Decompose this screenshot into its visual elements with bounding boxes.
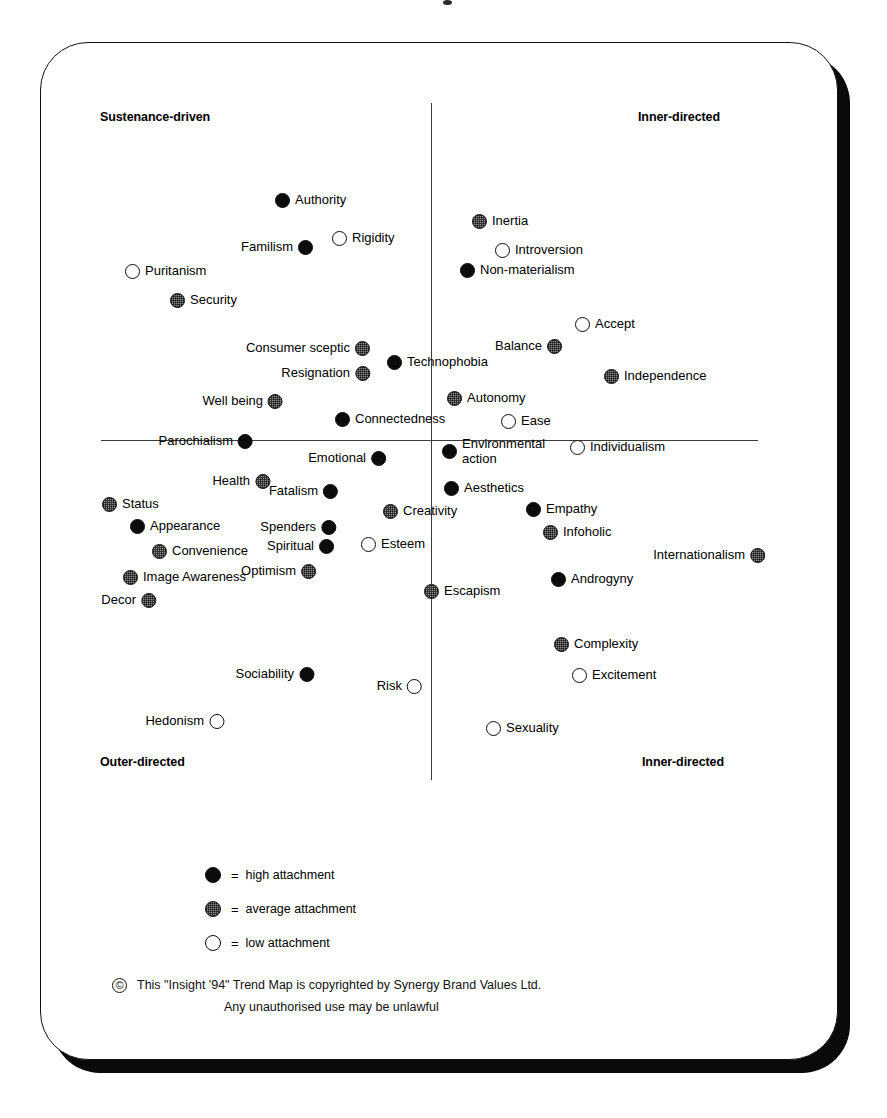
data-point[interactable]: Balance [495, 339, 562, 354]
data-point-label: Hedonism [145, 714, 209, 729]
marker-average-attachment-icon [141, 593, 156, 608]
marker-average-attachment-icon [543, 525, 558, 540]
data-point[interactable]: Authority [275, 193, 346, 208]
data-point[interactable]: Androgyny [551, 572, 633, 587]
data-point[interactable]: Resignation [281, 366, 370, 381]
data-point[interactable]: Spenders [260, 520, 336, 535]
data-point-label: Independence [619, 369, 706, 384]
marker-average-attachment-icon [355, 341, 370, 356]
data-point[interactable]: Complexity [554, 637, 638, 652]
data-point[interactable]: Ease [501, 414, 551, 429]
data-point[interactable]: Emotional [308, 451, 386, 466]
data-point[interactable]: Hedonism [145, 714, 224, 729]
data-point-label: Non-materialism [475, 263, 575, 278]
data-point-label: Aesthetics [459, 481, 524, 496]
data-point[interactable]: Rigidity [332, 231, 395, 246]
data-point[interactable]: Non-materialism [460, 263, 575, 278]
data-point[interactable]: Sociability [235, 667, 314, 682]
marker-low-attachment-icon [501, 414, 516, 429]
data-point[interactable]: Image Awareness [123, 570, 246, 585]
data-point[interactable]: Creativity [383, 504, 457, 519]
copyright-notice: © This "Insight '94" Trend Map is copyri… [112, 978, 752, 1014]
data-point-label: Creativity [398, 504, 457, 519]
data-point-label: Convenience [167, 544, 248, 559]
data-point[interactable]: Infoholic [543, 525, 611, 540]
data-point-label: Fatalism [269, 484, 323, 499]
data-point[interactable]: Security [170, 293, 237, 308]
legend-marker-high-icon [205, 867, 221, 883]
marker-low-attachment-icon [495, 243, 510, 258]
data-point[interactable]: Familism [241, 240, 313, 255]
data-point[interactable]: Individualism [570, 440, 665, 455]
data-point-label: Sexuality [501, 721, 559, 736]
data-point[interactable]: Risk [377, 679, 422, 694]
quadrant-label-top-left: Sustenance-driven [100, 110, 210, 124]
data-point[interactable]: Appearance [130, 519, 220, 534]
data-point[interactable]: Independence [604, 369, 706, 384]
data-point[interactable]: Autonomy [447, 391, 526, 406]
marker-average-attachment-icon [123, 570, 138, 585]
data-point-label: Security [185, 293, 237, 308]
data-point-label: Well being [203, 394, 268, 409]
data-point-label: Excitement [587, 668, 656, 683]
marker-low-attachment-icon [575, 317, 590, 332]
data-point[interactable]: Introversion [495, 243, 583, 258]
trend-map-page: Sustenance-driven Inner-directed Outer-d… [0, 0, 887, 1118]
data-point[interactable]: Technophobia [387, 355, 488, 370]
legend-marker-low-icon [205, 935, 221, 951]
data-point-label: Consumer sceptic [246, 341, 355, 356]
data-point[interactable]: Aesthetics [444, 481, 524, 496]
data-point[interactable]: Excitement [572, 668, 656, 683]
data-point[interactable]: Status [102, 497, 159, 512]
quadrant-label-top-right: Inner-directed [638, 110, 720, 124]
data-point[interactable]: Optimism [241, 564, 316, 579]
marker-average-attachment-icon [170, 293, 185, 308]
data-point-label: Inertia [487, 214, 528, 229]
data-point[interactable]: Connectedness [335, 412, 445, 427]
data-point[interactable]: Decor [101, 593, 156, 608]
marker-average-attachment-icon [152, 544, 167, 559]
data-point-label: Individualism [585, 440, 665, 455]
marker-average-attachment-icon [355, 366, 370, 381]
data-point[interactable]: Internationalism [653, 548, 765, 563]
data-point-label: Optimism [241, 564, 301, 579]
data-point[interactable]: Puritanism [125, 264, 206, 279]
data-point-label: Accept [590, 317, 635, 332]
data-point-label: Esteem [376, 537, 425, 552]
data-point-label: Spiritual [267, 539, 319, 554]
data-point[interactable]: Environmental action [442, 437, 558, 467]
marker-average-attachment-icon [102, 497, 117, 512]
marker-average-attachment-icon [447, 391, 462, 406]
data-point[interactable]: Fatalism [269, 484, 338, 499]
data-point[interactable]: Sexuality [486, 721, 559, 736]
data-point[interactable]: Health [212, 474, 270, 489]
marker-average-attachment-icon [750, 548, 765, 563]
data-point[interactable]: Esteem [361, 537, 425, 552]
marker-high-attachment-icon [460, 263, 475, 278]
marker-average-attachment-icon [268, 394, 283, 409]
data-point[interactable]: Accept [575, 317, 635, 332]
data-point-label: Internationalism [653, 548, 750, 563]
marker-high-attachment-icon [551, 572, 566, 587]
marker-low-attachment-icon [361, 537, 376, 552]
data-point[interactable]: Escapism [424, 584, 500, 599]
quadrant-label-bottom-left: Outer-directed [100, 755, 185, 769]
data-point[interactable]: Convenience [152, 544, 248, 559]
data-point[interactable]: Parochialism [159, 434, 253, 449]
data-point-label: Sociability [235, 667, 299, 682]
data-point-label: Emotional [308, 451, 371, 466]
marker-high-attachment-icon [323, 484, 338, 499]
data-point[interactable]: Consumer sceptic [246, 341, 370, 356]
marker-average-attachment-icon [472, 214, 487, 229]
marker-low-attachment-icon [125, 264, 140, 279]
data-point-label: Authority [290, 193, 346, 208]
data-point[interactable]: Spiritual [267, 539, 334, 554]
data-point-label: Introversion [510, 243, 583, 258]
data-point[interactable]: Well being [203, 394, 283, 409]
legend-item-low: =low attachment [205, 926, 356, 960]
data-point[interactable]: Empathy [526, 502, 597, 517]
data-point-label: Infoholic [558, 525, 611, 540]
data-point[interactable]: Inertia [472, 214, 528, 229]
data-point-label: Resignation [281, 366, 355, 381]
legend-equals-sign: = [221, 936, 246, 951]
